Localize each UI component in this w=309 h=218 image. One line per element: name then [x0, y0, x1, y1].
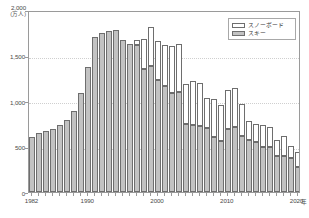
bar-segment-ski	[190, 125, 196, 192]
legend-swatch-ski-icon	[232, 31, 245, 36]
bar-segment-snowboard	[253, 124, 259, 142]
bar-segment-snowboard	[295, 152, 301, 167]
x-tick-mark	[290, 193, 291, 196]
bar-group	[64, 120, 70, 192]
legend-item-snowboard: スノーボード	[232, 21, 292, 29]
legend-label-snowboard: スノーボード	[248, 21, 284, 29]
bar-segment-ski	[64, 120, 70, 192]
x-tick-mark	[73, 193, 74, 196]
bar-segment-ski	[218, 141, 224, 192]
bar-segment-snowboard	[148, 27, 154, 65]
y-tick-label-1000: 1,000	[0, 99, 25, 106]
x-tick-mark	[206, 193, 207, 196]
x-tick-mark	[164, 193, 165, 196]
bar-segment-snowboard	[246, 121, 252, 140]
bar-segment-ski	[267, 147, 273, 192]
bar-segment-snowboard	[211, 99, 217, 136]
bar-group	[281, 136, 287, 192]
bar-group	[204, 98, 210, 192]
y-tick-label-1500: 1,500	[0, 53, 25, 60]
bar-segment-snowboard	[260, 125, 266, 148]
bar-segment-snowboard	[197, 83, 203, 127]
bar-segment-ski	[211, 137, 217, 193]
bar-group	[127, 44, 133, 192]
bar-segment-ski	[50, 129, 56, 192]
bar-segment-ski	[71, 111, 77, 192]
bar-group	[260, 125, 266, 192]
y-axis-unit-caption: (万人)	[0, 11, 26, 18]
bar-segment-ski	[120, 40, 126, 192]
x-tick-mark	[101, 193, 102, 196]
x-tick-mark	[227, 193, 228, 196]
y-tick-mark-1000	[25, 102, 28, 103]
bar-segment-ski	[85, 67, 91, 192]
legend-label-ski: スキー	[248, 29, 266, 37]
x-tick-mark	[192, 193, 193, 196]
bar-group	[50, 129, 56, 192]
bar-segment-ski	[288, 158, 294, 192]
bar-segment-ski	[162, 86, 168, 192]
bar-group	[197, 83, 203, 192]
bar-group	[99, 33, 105, 192]
bar-group	[36, 133, 42, 192]
bar-segment-snowboard	[134, 40, 140, 45]
bar-segment-ski	[281, 156, 287, 192]
bar-segment-ski	[253, 142, 259, 192]
bar-group	[295, 152, 301, 192]
bar-group	[162, 45, 168, 192]
bar-segment-ski	[29, 137, 35, 192]
bar-segment-ski	[92, 37, 98, 192]
bar-segment-ski	[155, 80, 161, 192]
y-tick-mark-1500	[25, 57, 28, 58]
x-tick-mark	[136, 193, 137, 196]
x-tick-mark	[213, 193, 214, 196]
bar-segment-ski	[169, 93, 175, 192]
x-tick-mark	[248, 193, 249, 196]
bar-segment-snowboard	[232, 88, 238, 127]
bar-segment-snowboard	[162, 45, 168, 86]
bar-segment-ski	[113, 30, 119, 192]
y-axis-top-value: 2,000	[0, 4, 26, 11]
bar-segment-snowboard	[155, 41, 161, 80]
bar-segment-ski	[148, 66, 154, 192]
x-tick-mark	[199, 193, 200, 196]
bar-segment-snowboard	[169, 46, 175, 92]
bar-segment-snowboard	[141, 39, 147, 69]
bar-segment-ski	[99, 33, 105, 192]
bar-group	[106, 31, 112, 192]
bar-segment-ski	[239, 136, 245, 192]
bar-group	[211, 99, 217, 192]
bar-segment-ski	[232, 127, 238, 192]
bar-group	[288, 146, 294, 192]
bar-group	[85, 67, 91, 192]
bar-segment-snowboard	[176, 44, 182, 92]
bar-segment-ski	[183, 124, 189, 192]
x-tick-mark	[297, 193, 298, 196]
bar-segment-ski	[176, 92, 182, 192]
bar-segment-snowboard	[204, 98, 210, 128]
bar-segment-ski	[274, 156, 280, 192]
bar-segment-snowboard	[267, 127, 273, 148]
bar-segment-ski	[225, 129, 231, 192]
x-tick-mark	[276, 193, 277, 196]
y-tick-mark-500	[25, 148, 28, 149]
bar-group	[29, 137, 35, 192]
bar-segment-snowboard	[218, 105, 224, 141]
bar-group	[246, 121, 252, 192]
x-tick-mark	[80, 193, 81, 196]
bar-group	[57, 125, 63, 192]
x-tick-mark	[171, 193, 172, 196]
bar-segment-ski	[106, 31, 112, 192]
bar-group	[190, 81, 196, 192]
bar-segment-snowboard	[288, 146, 294, 159]
x-tick-mark	[94, 193, 95, 196]
bar-group	[267, 126, 273, 192]
x-tick-label-1990: 1990	[81, 197, 94, 205]
bar-segment-ski	[57, 125, 63, 192]
bar-segment-snowboard	[281, 136, 287, 156]
bar-segment-snowboard	[274, 140, 280, 155]
x-tick-mark	[255, 193, 256, 196]
bar-group	[218, 105, 224, 192]
bar-segment-snowboard	[225, 90, 231, 129]
x-tick-mark	[59, 193, 60, 196]
